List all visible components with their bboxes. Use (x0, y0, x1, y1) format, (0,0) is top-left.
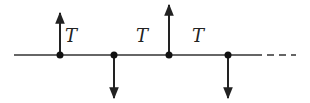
node-2 (111, 52, 118, 99)
mass-point (57, 52, 64, 59)
mass-point (111, 52, 118, 59)
mass-point (166, 52, 173, 59)
node-1 (57, 13, 64, 59)
tension-label: T (136, 27, 148, 45)
node-4 (225, 52, 232, 99)
mass-point (225, 52, 232, 59)
node-3 (166, 5, 173, 59)
tension-label: T (65, 27, 77, 45)
force-diagram (0, 0, 310, 103)
tension-label: T (192, 27, 204, 45)
